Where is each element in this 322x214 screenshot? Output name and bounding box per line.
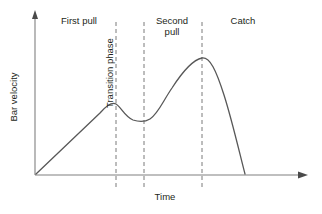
y-axis-arrowhead [32,10,38,19]
annotation-second-pull: Secondpull [145,16,199,37]
x-axis-arrowhead [298,172,308,179]
annotation-catch: Catch [212,16,274,27]
y-axis-label: Bar velocity [9,62,20,132]
annotation-transition-phase: Transition phase [105,22,116,108]
annotation-first-pull: First pull [44,16,114,27]
velocity-curve [36,58,245,174]
annotation-second-pull-line2: pull [165,26,180,37]
chart-figure: First pull Transition phase Secondpull C… [0,0,322,214]
x-axis-label: Time [140,192,190,203]
annotation-second-pull-line1: Second [156,15,188,26]
